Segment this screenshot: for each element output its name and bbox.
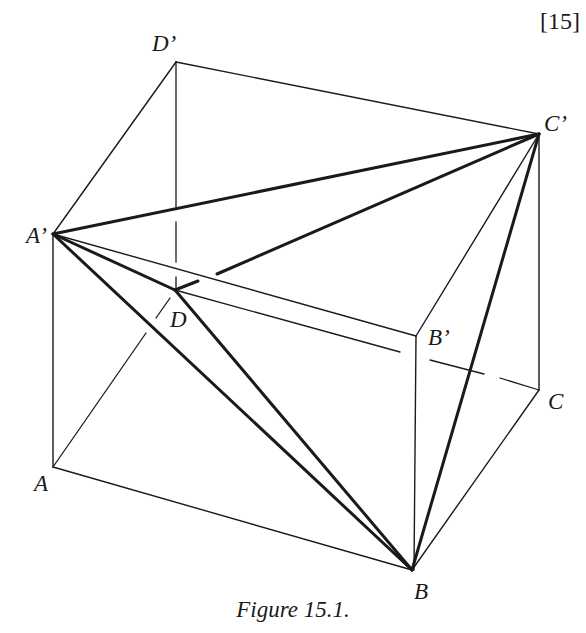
figure-caption: Figure 15.1. [0,597,586,623]
vertex-label-C: C [548,390,563,413]
diag-D-Cprime [217,134,539,274]
diag-D-B [175,290,412,570]
diag-D-Cprime-stub [175,281,198,290]
edge-B-Bprime [414,336,416,570]
diag-Aprime-Cprime [53,134,539,234]
edge-B-C [412,390,539,570]
vertex-label-A: A [34,472,48,495]
edge-Bprime-Cprime [416,134,539,336]
cube-diagram: [15] D’ C’ A’ D B’ C A B Figure 15.1. [0,0,586,633]
edge-A-D-hidden [53,333,146,467]
edge-Dprime-Aprime [53,62,176,234]
edge-D-C-hidden-2 [430,360,484,374]
vertex-label-D: D [170,308,187,331]
vertex-label-A-prime: A’ [26,224,47,247]
edge-D-C-hidden-3 [500,378,539,390]
edge-Cprime-Dprime [176,62,539,134]
vertex-label-B-prime: B’ [428,326,450,349]
diag-B-Cprime [412,134,539,570]
cube-figure-svg [0,0,586,633]
edge-A-D-hidden-top [156,298,170,318]
vertex-label-C-prime: C’ [544,112,567,135]
problem-reference: [15] [540,8,580,35]
diag-Aprime-D [53,234,175,290]
vertex-label-D-prime: D’ [152,32,176,55]
